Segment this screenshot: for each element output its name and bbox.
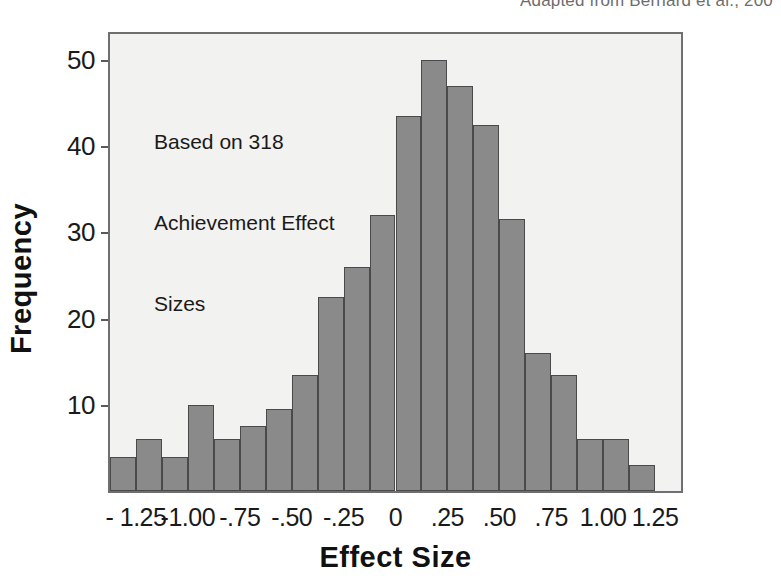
histogram-bar	[214, 439, 240, 491]
histogram-bar	[447, 86, 473, 491]
x-axis-tick-label: 1.25	[632, 503, 679, 532]
y-axis-tick-mark	[101, 146, 108, 148]
histogram-bar	[370, 215, 396, 491]
histogram-bar	[396, 116, 422, 491]
histogram-bar	[473, 125, 499, 491]
histogram-bar	[266, 409, 292, 491]
x-axis-tick-label: -1.00	[161, 503, 215, 532]
chart-annotation: Based on 318 Achievement Effect Sizes	[154, 74, 335, 371]
histogram-bar	[603, 439, 629, 491]
y-axis-tick-mark	[101, 232, 108, 234]
x-axis-tick-label: .75	[535, 503, 568, 532]
histogram-bar	[525, 353, 551, 491]
chart-canvas: Adapted from Bernard et al., 200 Frequen…	[0, 0, 781, 580]
histogram-bar	[188, 405, 214, 491]
y-axis-tick-mark	[101, 319, 108, 321]
histogram-bar	[629, 465, 655, 491]
histogram-bar	[499, 219, 525, 491]
histogram-bar	[162, 457, 188, 491]
y-axis-tick-label: 20	[25, 303, 95, 334]
x-axis-tick-label: - 1.25	[105, 503, 166, 532]
y-axis-tick-label: 40	[25, 131, 95, 162]
x-axis-tick-label: .25	[431, 503, 464, 532]
annotation-line-1: Based on 318	[154, 128, 335, 155]
histogram-bar	[344, 267, 370, 491]
y-axis-tick-mark	[101, 405, 108, 407]
x-axis-tick-label: 0	[389, 503, 402, 532]
source-credit: Adapted from Bernard et al., 200	[0, 0, 781, 11]
x-axis-title: Effect Size	[108, 541, 683, 574]
plot-area: Based on 318 Achievement Effect Sizes	[108, 32, 683, 493]
y-axis-tick-label: 50	[25, 44, 95, 75]
annotation-line-2: Achievement Effect	[154, 209, 335, 236]
y-axis-tick-mark	[101, 60, 108, 62]
histogram-bar	[577, 439, 603, 491]
histogram-bar	[421, 60, 447, 491]
annotation-line-3: Sizes	[154, 290, 335, 317]
histogram-bar	[240, 426, 266, 491]
y-axis-title: Frequency	[5, 174, 38, 384]
y-axis-tick-label: 10	[25, 389, 95, 420]
y-axis-tick-label: 30	[25, 217, 95, 248]
histogram-bar	[551, 375, 577, 491]
x-axis-tick-label: -.25	[323, 503, 364, 532]
histogram-bar	[292, 375, 318, 491]
x-axis-tick-label: -.75	[219, 503, 260, 532]
histogram-bar	[110, 457, 136, 491]
x-axis-tick-label: .50	[483, 503, 516, 532]
x-axis-tick-label: 1.00	[580, 503, 627, 532]
histogram-bar	[136, 439, 162, 491]
x-axis-tick-label: -.50	[271, 503, 312, 532]
